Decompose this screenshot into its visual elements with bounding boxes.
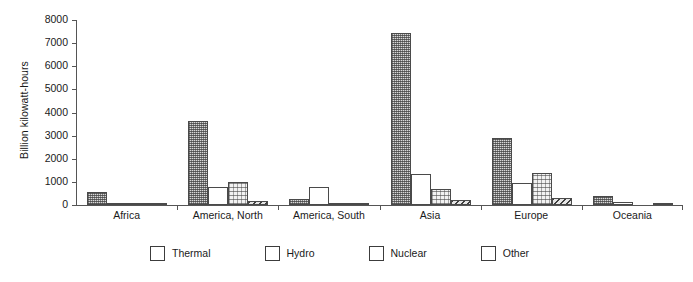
bar [107,203,127,205]
y-axis-tick-label: 4000 [24,106,68,118]
legend-item-label: Hydro [287,247,315,259]
bar [208,187,228,205]
bar [127,203,147,205]
y-axis-tick-label: 0 [24,198,68,210]
plot-area: 010002000300040005000600070008000 [76,20,683,206]
bar-groups [76,20,683,206]
legend-item[interactable]: Other [481,246,529,261]
bar-group [177,20,278,205]
bar-chart: Billion kilowatt-hours 01000200030004000… [0,0,693,282]
bar [188,121,208,205]
chart-legend: ThermalHydroNuclearOther [150,243,570,263]
legend-item[interactable]: Hydro [265,246,315,261]
legend-item[interactable]: Nuclear [369,246,427,261]
y-axis-tick-label: 3000 [24,129,68,141]
bar [391,33,411,205]
bar [248,201,268,205]
bar [613,202,633,205]
legend-item[interactable]: Thermal [150,246,211,261]
bar [329,203,349,205]
legend-item-label: Other [503,247,529,259]
x-axis-label: Europe [514,209,548,221]
bar [349,203,369,205]
bar [309,187,329,205]
bar [492,138,512,205]
bar [87,192,107,205]
bar [593,196,613,205]
bar [552,198,572,205]
x-axis-label: Oceania [613,209,652,221]
y-axis-tick-label: 5000 [24,82,68,94]
y-axis-tick-label: 6000 [24,59,68,71]
bar-group-bars [391,20,471,205]
bar-group-bars [188,20,268,205]
y-axis-tick-label: 7000 [24,36,68,48]
legend-item-label: Thermal [172,247,211,259]
bar [228,182,248,205]
bar [512,183,532,205]
bar [289,199,309,205]
y-axis-tick-label: 8000 [24,13,68,25]
bar [451,200,471,205]
bar [532,173,552,205]
bar [431,189,451,205]
x-axis-label: Africa [113,209,140,221]
x-axis-label: America, North [193,209,263,221]
bar [653,203,673,205]
bar-group [278,20,379,205]
bar-group-bars [289,20,369,205]
x-axis-labels: AfricaAmerica, NorthAmerica, SouthAsiaEu… [76,209,683,227]
legend-item-label: Nuclear [391,247,427,259]
y-axis-tick-label: 2000 [24,152,68,164]
bar-group-bars [593,20,673,205]
bar-group [380,20,481,205]
bar [147,203,167,205]
legend-swatch-icon [150,246,165,261]
legend-swatch-icon [265,246,280,261]
y-axis-tick-label: 1000 [24,175,68,187]
bar-group [582,20,683,205]
bar-group-bars [492,20,572,205]
legend-swatch-icon [481,246,496,261]
x-axis-label: America, South [293,209,365,221]
bar [411,174,431,205]
x-axis-label: Asia [420,209,440,221]
legend-swatch-icon [369,246,384,261]
bar-group [481,20,582,205]
bar-group-bars [87,20,167,205]
bar-group [76,20,177,205]
